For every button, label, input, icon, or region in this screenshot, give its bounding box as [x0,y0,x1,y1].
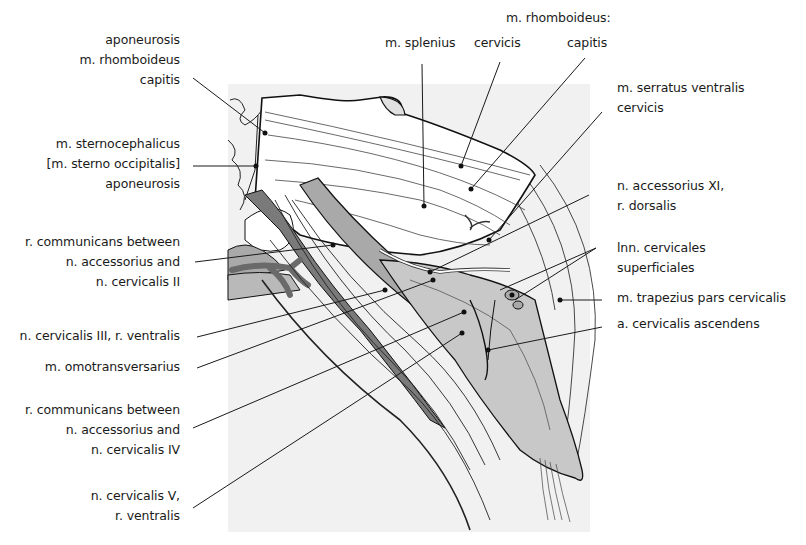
label-r-communicans-cervicalis-iv: r. communicans between n. accessorius an… [25,400,180,460]
label-r-communicans-cervicalis-ii: r. communicans between n. accessorius an… [25,232,180,292]
label-line: [m. sterno occipitalis] [47,154,180,174]
label-rhomboideus-capitis: capitis [567,33,607,53]
label-rhomboideus-cervicis: cervicis [474,33,521,53]
label-line: m. rhomboideus [79,50,180,70]
label-line: m. serratus ventralis [617,78,744,98]
label-line: cervicis [474,33,521,53]
label-line: n. cervicalis IV [25,440,180,460]
label-accessorius-xi: n. accessorius XI, r. dorsalis [617,176,724,216]
label-line: superficiales [617,258,706,278]
label-line: aponeurosis [79,30,180,50]
label-line: m. rhomboideus: [506,8,611,28]
label-line: r. communicans between [25,232,180,252]
label-n-cervicalis-v: n. cervicalis V, r. ventralis [91,486,180,526]
label-line: m. sternocephalicus [47,134,180,154]
label-line: n. accessorius and [25,420,180,440]
label-line: m. trapezius pars cervicalis [617,288,786,308]
label-line: n. cervicalis II [25,272,180,292]
label-line: capitis [79,70,180,90]
label-line: r. dorsalis [617,196,724,216]
label-line: aponeurosis [47,174,180,194]
label-trapezius: m. trapezius pars cervicalis [617,288,786,308]
label-line: r. ventralis [91,506,180,526]
label-line: m. splenius [385,33,455,53]
label-line: r. communicans between [25,400,180,420]
label-aponeurosis-rhomboideus-capitis: aponeurosis m. rhomboideus capitis [79,30,180,90]
label-splenius: m. splenius [385,33,455,53]
label-line: n. accessorius and [25,252,180,272]
label-cervicalis-ascendens: a. cervicalis ascendens [617,314,760,334]
label-omotransversarius: m. omotransversarius [45,357,180,377]
label-serratus-ventralis: m. serratus ventralis cervicis [617,78,744,118]
label-line: capitis [567,33,607,53]
label-rhomboideus-heading: m. rhomboideus: [506,8,611,28]
label-line: lnn. cervicales [617,238,706,258]
label-n-cervicalis-iii: n. cervicalis III, r. ventralis [20,326,180,346]
label-line: cervicis [617,98,744,118]
label-line: n. cervicalis III, r. ventralis [20,326,180,346]
label-lnn-cervicales: lnn. cervicales superficiales [617,238,706,278]
label-sternocephalicus: m. sternocephalicus [m. sterno occipital… [47,134,180,194]
label-line: n. accessorius XI, [617,176,724,196]
label-line: a. cervicalis ascendens [617,314,760,334]
label-line: n. cervicalis V, [91,486,180,506]
label-line: m. omotransversarius [45,357,180,377]
